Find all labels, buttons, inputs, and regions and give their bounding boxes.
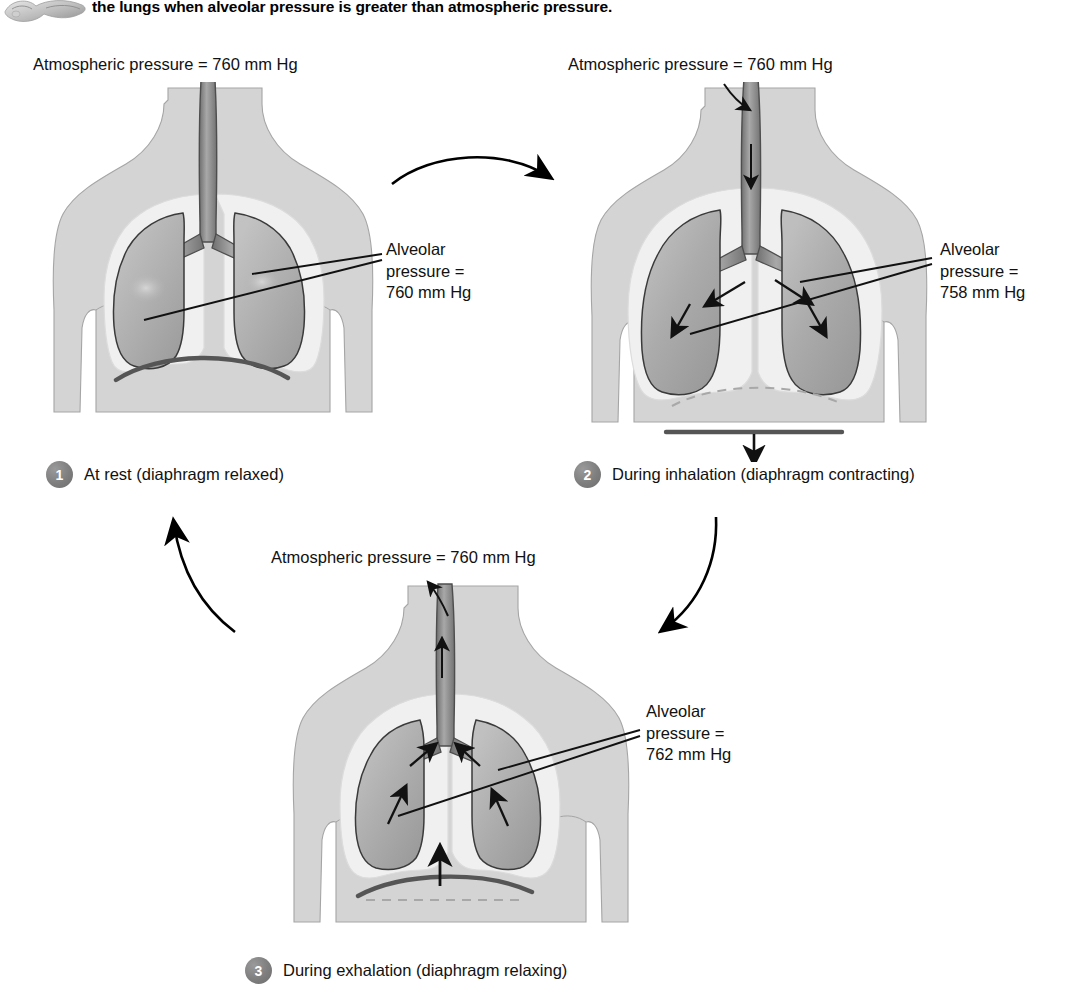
figure-caption: increases the volume of the thoracic cav… bbox=[92, 0, 992, 16]
panel-during-exhalation bbox=[240, 578, 660, 958]
alveolar-label-rest-line3: 760 mm Hg bbox=[386, 282, 471, 304]
lungs-thumbnail-icon bbox=[2, 0, 88, 32]
alveolar-label-inhalation-line2: pressure = bbox=[940, 261, 1025, 283]
alveolar-label-inhalation-line3: 758 mm Hg bbox=[940, 282, 1025, 304]
alveolar-label-exhalation-line2: pressure = bbox=[646, 723, 731, 745]
alveolar-label-exhalation-line1: Alveolar bbox=[646, 701, 731, 723]
step-caption-rest: 1 At rest (diaphragm relaxed) bbox=[46, 461, 284, 488]
alveolar-label-rest-line1: Alveolar bbox=[386, 239, 471, 261]
step-caption-exhalation: 3 During exhalation (diaphragm relaxing) bbox=[245, 957, 567, 984]
caption-line-1: the lungs when alveolar pressure is grea… bbox=[92, 0, 992, 16]
arrow-exhalation-to-rest bbox=[155, 500, 265, 645]
panel-during-inhalation bbox=[530, 82, 950, 462]
alveolar-label-inhalation-line1: Alveolar bbox=[940, 239, 1025, 261]
alveolar-label-rest-line2: pressure = bbox=[386, 261, 471, 283]
atmospheric-label-exhalation: Atmospheric pressure = 760 mm Hg bbox=[271, 548, 536, 567]
atmospheric-label-inhalation: Atmospheric pressure = 760 mm Hg bbox=[568, 55, 833, 74]
alveolar-label-exhalation-line3: 762 mm Hg bbox=[646, 744, 731, 766]
alveolar-label-exhalation: Alveolar pressure = 762 mm Hg bbox=[646, 701, 731, 766]
step-caption-inhalation-text: During inhalation (diaphragm contracting… bbox=[612, 465, 915, 484]
step-caption-inhalation: 2 During inhalation (diaphragm contracti… bbox=[574, 461, 915, 488]
step-badge-3: 3 bbox=[245, 957, 272, 984]
alveolar-label-inhalation: Alveolar pressure = 758 mm Hg bbox=[940, 239, 1025, 304]
arrow-rest-to-inhalation bbox=[380, 140, 580, 200]
step-badge-2: 2 bbox=[574, 461, 601, 488]
atmospheric-label-rest: Atmospheric pressure = 760 mm Hg bbox=[33, 55, 298, 74]
alveolar-label-rest: Alveolar pressure = 760 mm Hg bbox=[386, 239, 471, 304]
step-badge-1: 1 bbox=[46, 461, 73, 488]
step-caption-rest-text: At rest (diaphragm relaxed) bbox=[84, 465, 284, 484]
step-caption-exhalation-text: During exhalation (diaphragm relaxing) bbox=[283, 961, 567, 980]
arrow-inhalation-to-exhalation bbox=[630, 505, 740, 650]
panel-at-rest bbox=[0, 82, 400, 452]
diagram-canvas: increases the volume of the thoracic cav… bbox=[0, 0, 1069, 991]
